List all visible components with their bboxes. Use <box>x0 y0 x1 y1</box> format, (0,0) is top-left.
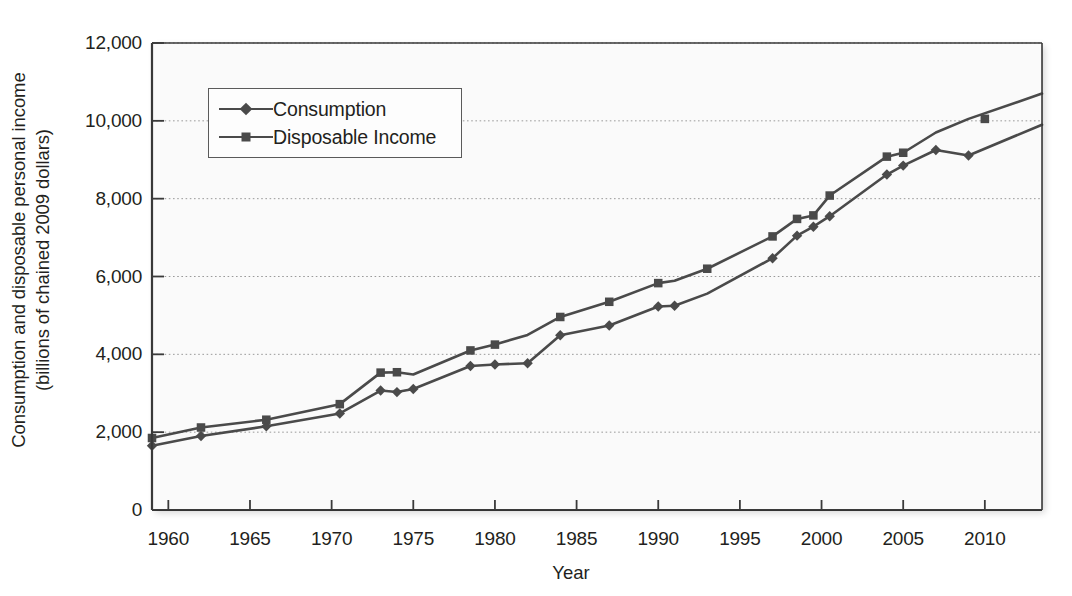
legend-marker-diamond-icon <box>219 99 273 119</box>
plot-area <box>0 0 1072 596</box>
legend-label-disposable-income: Disposable Income <box>273 126 436 149</box>
legend-item-consumption: Consumption <box>219 95 461 123</box>
legend-item-disposable-income: Disposable Income <box>219 123 461 151</box>
legend-label-consumption: Consumption <box>273 98 386 121</box>
chart-figure: Consumption and disposable personal inco… <box>0 0 1072 596</box>
chart-legend: Consumption Disposable Income <box>208 88 462 158</box>
legend-marker-square-icon <box>219 127 273 147</box>
